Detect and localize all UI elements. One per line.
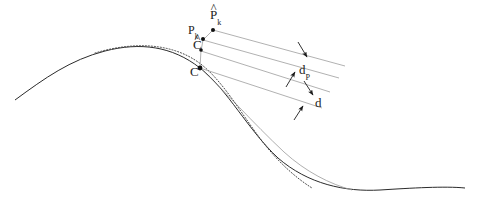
- label-base-glyph: d: [315, 96, 322, 109]
- arrow-d-p-lower: [286, 72, 295, 87]
- hat-accent-icon: ^: [211, 2, 217, 14]
- label-d: d: [315, 96, 322, 109]
- hat-accent-icon: ^: [194, 32, 200, 44]
- extension-c-to-c-hat: [200, 50, 201, 68]
- dimension-leader-lines: [200, 30, 345, 108]
- label-base-glyph: d: [299, 63, 306, 76]
- label-p-hat-k: P^k: [210, 8, 221, 25]
- label-subscript: P: [306, 73, 310, 82]
- point-p-hat-k: [211, 28, 215, 32]
- label-c: C: [190, 65, 199, 78]
- label-subscript: k: [217, 18, 221, 27]
- dotted-curve: [95, 46, 312, 188]
- arrow-d-upper: [304, 81, 313, 95]
- arrow-d-lower: [294, 106, 303, 120]
- label-base-glyph: C^: [193, 38, 202, 51]
- diagram-svg: [0, 0, 480, 205]
- label-d-p: dP: [299, 63, 310, 80]
- label-c-hat: C^: [193, 38, 202, 51]
- solid-curve: [15, 47, 465, 191]
- diagram-canvas: P^k Pk C^ C dP d: [0, 0, 480, 205]
- label-base-glyph: C: [190, 65, 199, 78]
